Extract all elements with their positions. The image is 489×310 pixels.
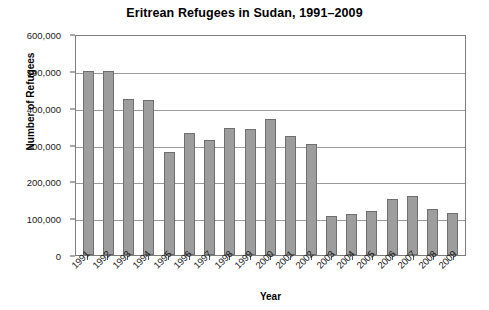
chart-title: Eritrean Refugees in Sudan, 1991–2009 (0, 6, 489, 20)
bar-1995[interactable] (164, 152, 175, 255)
x-label-slot: 2009 (444, 261, 464, 295)
bar-1998[interactable] (224, 128, 235, 255)
bar-slot (220, 36, 240, 255)
bar-2008[interactable] (427, 209, 438, 255)
bar-slot (260, 36, 280, 255)
bar-1993[interactable] (123, 99, 134, 255)
bar-slot (98, 36, 118, 255)
bar-slot (200, 36, 220, 255)
x-axis: 1991199219931994199519961997199819992000… (75, 261, 466, 295)
bar-1999[interactable] (245, 129, 256, 255)
bar-slot (78, 36, 98, 255)
bar-slot (423, 36, 443, 255)
bar-slot (119, 36, 139, 255)
bar-slot (179, 36, 199, 255)
bar-1991[interactable] (83, 71, 94, 255)
y-tick-label: 0 (56, 251, 61, 262)
y-axis-title: Number of Refugees (25, 12, 36, 192)
bar-slot (281, 36, 301, 255)
bar-slot (402, 36, 422, 255)
bar-1996[interactable] (184, 133, 195, 255)
bar-chart: Eritrean Refugees in Sudan, 1991–2009 60… (0, 0, 489, 310)
y-tick-label: 100,000 (27, 214, 61, 225)
bar-slot (443, 36, 463, 255)
bar-slot (321, 36, 341, 255)
bar-2000[interactable] (265, 119, 276, 255)
bar-slot (382, 36, 402, 255)
x-axis-title: Year (75, 291, 466, 302)
bar-slot (341, 36, 361, 255)
bar-1997[interactable] (204, 140, 215, 255)
bar-slot (301, 36, 321, 255)
bar-slot (139, 36, 159, 255)
bar-2001[interactable] (285, 136, 296, 255)
bar-slot (362, 36, 382, 255)
bar-1992[interactable] (103, 71, 114, 255)
bar-1994[interactable] (143, 100, 154, 255)
bar-2006[interactable] (387, 199, 398, 255)
bar-slot (240, 36, 260, 255)
bars-layer (76, 36, 465, 255)
plot-area (75, 35, 466, 256)
bar-2007[interactable] (407, 196, 418, 255)
bar-2002[interactable] (306, 144, 317, 255)
bar-slot (159, 36, 179, 255)
